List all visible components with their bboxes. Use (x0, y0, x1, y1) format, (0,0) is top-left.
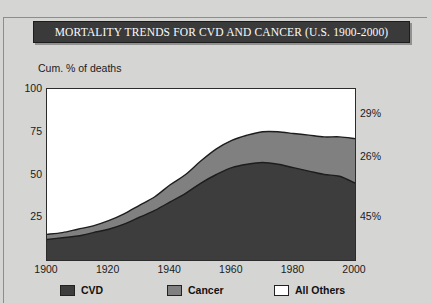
stacked-area-chart (47, 89, 355, 260)
x-tick-1960: 1960 (219, 263, 242, 275)
legend-swatch-all-others (274, 285, 289, 296)
legend-item-cvd[interactable]: CVD (60, 284, 103, 296)
x-axis-ticks: 190019201940196019802000 (46, 263, 354, 279)
x-tick-1940: 1940 (158, 263, 181, 275)
legend-swatch-cancer (167, 285, 182, 296)
y-axis-ticks: 255075100 (4, 88, 42, 259)
annotation-26pct: 26% (360, 150, 381, 162)
right-percent-annotations: 29%26%45% (360, 88, 420, 259)
y-axis-label: Cum. % of deaths (38, 62, 121, 74)
chart-frame: MORTALITY TRENDS FOR CVD AND CANCER (U.S… (3, 17, 427, 303)
plot-area (46, 88, 356, 261)
x-tick-2000: 2000 (342, 263, 365, 275)
y-tick-100: 100 (8, 82, 42, 94)
legend-item-cancer[interactable]: Cancer (167, 284, 224, 296)
x-tick-1900: 1900 (34, 263, 57, 275)
chart-title-bar: MORTALITY TRENDS FOR CVD AND CANCER (U.S… (33, 21, 410, 43)
chart-legend: CVD Cancer All Others (46, 282, 354, 298)
legend-label-all-others: All Others (295, 284, 345, 296)
x-tick-1980: 1980 (281, 263, 304, 275)
legend-label-cvd: CVD (81, 284, 103, 296)
x-tick-1920: 1920 (96, 263, 119, 275)
y-tick-25: 25 (8, 210, 42, 222)
y-tick-50: 50 (8, 168, 42, 180)
y-tick-75: 75 (8, 125, 42, 137)
annotation-45pct: 45% (360, 210, 381, 222)
legend-swatch-cvd (60, 285, 75, 296)
annotation-29pct: 29% (360, 107, 381, 119)
page-title: MORTALITY TRENDS FOR CVD AND CANCER (U.S… (55, 26, 389, 38)
legend-item-all-others[interactable]: All Others (274, 284, 345, 296)
legend-label-cancer: Cancer (188, 284, 224, 296)
